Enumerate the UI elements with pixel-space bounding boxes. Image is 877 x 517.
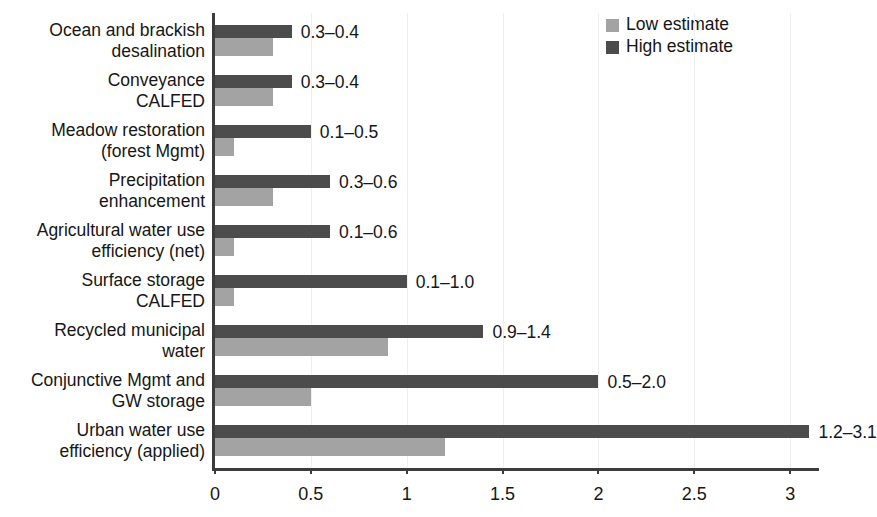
bar-low-estimate — [215, 138, 234, 156]
axis-tickmark — [214, 468, 216, 474]
category-label-line: desalination — [0, 41, 205, 62]
axis-tickmark — [502, 468, 504, 474]
axis-tickmark — [693, 468, 695, 474]
axis-tickmark — [789, 468, 791, 474]
bar-low-estimate — [215, 238, 234, 256]
bar-high-estimate — [215, 225, 330, 238]
category-label: Precipitationenhancement — [0, 170, 205, 212]
value-axis-tick-label: 2.5 — [682, 485, 707, 503]
value-axis-tick-label: 3 — [785, 485, 795, 503]
bar-value-label: 0.3–0.6 — [339, 174, 397, 192]
category-label: Meadow restoration(forest Mgmt) — [0, 120, 205, 162]
bar-value-label: 0.1–0.6 — [339, 224, 397, 242]
bar-value-label: 0.9–1.4 — [492, 324, 550, 342]
bar-value-label: 0.1–1.0 — [416, 274, 474, 292]
value-axis-tick-label: 1.5 — [490, 485, 515, 503]
bar-high-estimate — [215, 325, 483, 338]
category-label: Recycled municipalwater — [0, 320, 205, 362]
category-label-line: enhancement — [0, 191, 205, 212]
category-label: Ocean and brackishdesalination — [0, 20, 205, 62]
bar-group: 0.1–0.5 — [215, 125, 819, 156]
category-label-line: CALFED — [0, 291, 205, 312]
bar-group: 0.1–0.6 — [215, 225, 819, 256]
bar-low-estimate — [215, 88, 273, 106]
category-label-line: (forest Mgmt) — [0, 141, 205, 162]
bar-group: 0.3–0.4 — [215, 25, 819, 56]
value-axis-tick-label: 1 — [402, 485, 412, 503]
category-label: Agricultural water useefficiency (net) — [0, 220, 205, 262]
bar-group: 0.1–1.0 — [215, 275, 819, 306]
axis-tickmark — [406, 468, 408, 474]
bar-low-estimate — [215, 188, 273, 206]
bar-low-estimate — [215, 288, 234, 306]
bar-group: 0.9–1.4 — [215, 325, 819, 356]
category-label-line: Conveyance — [0, 70, 205, 91]
category-label: Conjunctive Mgmt andGW storage — [0, 370, 205, 412]
bar-high-estimate — [215, 175, 330, 188]
category-label-line: Meadow restoration — [0, 120, 205, 141]
value-axis-tick-label: 2 — [593, 485, 603, 503]
bar-group: 1.2–3.1 — [215, 425, 819, 456]
bar-high-estimate — [215, 125, 311, 138]
axis-tickmark — [310, 468, 312, 474]
category-label: Urban water useefficiency (applied) — [0, 420, 205, 462]
category-label-line: Urban water use — [0, 420, 205, 441]
bar-group: 0.5–2.0 — [215, 375, 819, 406]
bar-value-label: 1.2–3.1 — [818, 424, 876, 442]
category-label-line: CALFED — [0, 91, 205, 112]
bar-low-estimate — [215, 438, 445, 456]
bar-high-estimate — [215, 25, 292, 38]
bar-high-estimate — [215, 375, 598, 388]
bar-value-label: 0.3–0.4 — [301, 74, 359, 92]
category-label-line: Ocean and brackish — [0, 20, 205, 41]
category-label-line: Agricultural water use — [0, 220, 205, 241]
bar-group: 0.3–0.6 — [215, 175, 819, 206]
category-label-line: GW storage — [0, 391, 205, 412]
category-label: Surface storageCALFED — [0, 270, 205, 312]
bar-low-estimate — [215, 388, 311, 406]
category-label-line: Surface storage — [0, 270, 205, 291]
category-label-line: Conjunctive Mgmt and — [0, 370, 205, 391]
category-label-line: Recycled municipal — [0, 320, 205, 341]
category-label-line: Precipitation — [0, 170, 205, 191]
bar-low-estimate — [215, 338, 388, 356]
category-label-line: water — [0, 341, 205, 362]
axis-tickmark — [597, 468, 599, 474]
bar-low-estimate — [215, 38, 273, 56]
category-label-line: efficiency (applied) — [0, 441, 205, 462]
category-axis-line — [212, 468, 819, 471]
bar-high-estimate — [215, 425, 809, 438]
value-axis-tick-label: 0.5 — [298, 485, 323, 503]
bar-high-estimate — [215, 275, 407, 288]
bar-group: 0.3–0.4 — [215, 75, 819, 106]
bar-value-label: 0.3–0.4 — [301, 24, 359, 42]
category-label: ConveyanceCALFED — [0, 70, 205, 112]
category-label-line: efficiency (net) — [0, 241, 205, 262]
bar-value-label: 0.1–0.5 — [320, 124, 378, 142]
value-axis-tick-label: 0 — [210, 485, 220, 503]
bar-high-estimate — [215, 75, 292, 88]
bar-value-label: 0.5–2.0 — [607, 374, 665, 392]
plot-area: 0.3–0.40.3–0.40.1–0.50.3–0.60.1–0.60.1–1… — [215, 13, 819, 468]
